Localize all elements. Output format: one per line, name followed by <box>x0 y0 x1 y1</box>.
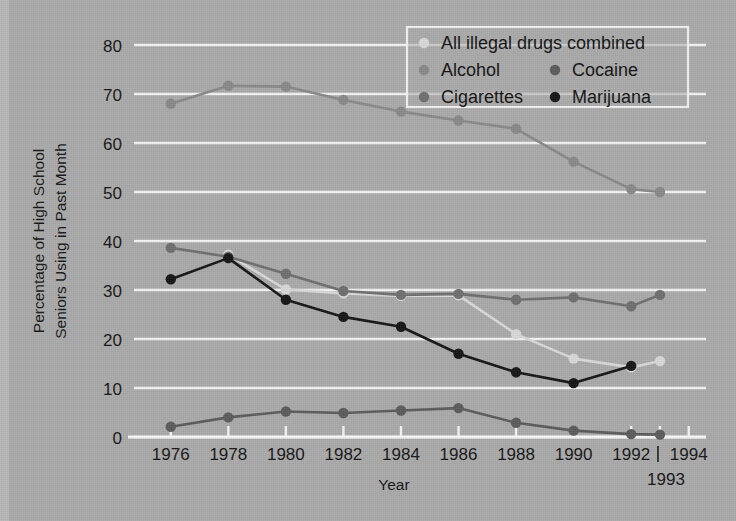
x-tick-labels-group: 1976197819801982198419861988199019921994… <box>152 445 708 489</box>
legend-label: Marijuana <box>572 87 652 107</box>
y-tick-label: 0 <box>113 429 122 448</box>
data-point <box>396 290 406 300</box>
data-point <box>568 353 578 363</box>
y-axis-title-line2: Seniors Using in Past Month <box>52 143 69 339</box>
data-point <box>568 156 578 166</box>
y-tick-label: 80 <box>103 37 122 56</box>
legend-marker-icon <box>419 92 429 102</box>
data-point <box>223 81 233 91</box>
y-tick-label: 70 <box>103 86 122 105</box>
data-point <box>338 286 348 296</box>
legend-item[interactable]: All illegal drugs combined <box>419 33 645 53</box>
y-tick-label: 20 <box>103 331 122 350</box>
x-axis-title: Year <box>378 476 409 493</box>
data-point <box>338 95 348 105</box>
data-point <box>281 406 291 416</box>
data-point <box>166 243 176 253</box>
data-point <box>281 269 291 279</box>
data-point <box>453 115 463 125</box>
series-line <box>228 255 660 368</box>
x-tick-label: 1978 <box>209 445 247 464</box>
y-tick-labels-group: 01020304050607080 <box>103 37 122 448</box>
x-tick-label: 1992 <box>612 445 650 464</box>
x-tick-label: 1994 <box>670 445 708 464</box>
legend-marker-icon <box>419 38 429 48</box>
data-point <box>223 253 233 263</box>
y-tick-label: 40 <box>103 233 122 252</box>
data-point <box>166 99 176 109</box>
x-tickmarks-group <box>171 426 689 437</box>
data-point <box>626 301 636 311</box>
series-cigarettes <box>166 243 666 312</box>
y-tick-label: 50 <box>103 184 122 203</box>
line-chart: 01020304050607080 1976197819801982198419… <box>0 0 736 521</box>
x-tick-label: 1984 <box>382 445 420 464</box>
x-tick-label: 1990 <box>555 445 593 464</box>
data-point <box>511 367 521 377</box>
series-marijuana <box>166 253 637 388</box>
data-series-group <box>166 81 666 440</box>
data-point <box>396 405 406 415</box>
data-point <box>166 274 176 284</box>
data-point <box>568 425 578 435</box>
legend-label: Alcohol <box>441 60 500 80</box>
data-point <box>453 403 463 413</box>
data-point <box>453 289 463 299</box>
data-point <box>655 356 665 366</box>
data-point <box>281 295 291 305</box>
data-point <box>626 361 636 371</box>
x-tick-label: 1982 <box>325 445 363 464</box>
x-tick-label: 1976 <box>152 445 190 464</box>
data-point <box>511 124 521 134</box>
series-cocaine <box>166 403 666 440</box>
series-line <box>171 248 660 306</box>
data-point <box>281 284 291 294</box>
legend-marker-icon <box>550 65 560 75</box>
x-tick-label-1993: 1993 <box>647 470 685 489</box>
x-tick-label: 1988 <box>497 445 535 464</box>
legend-label: All illegal drugs combined <box>441 33 645 53</box>
data-point <box>166 422 176 432</box>
data-point <box>511 329 521 339</box>
data-point <box>396 322 406 332</box>
series-all-illegal-drugs-combined <box>223 250 665 373</box>
data-point <box>655 429 665 439</box>
data-point <box>511 295 521 305</box>
x-tick-label: 1980 <box>267 445 305 464</box>
data-point <box>568 378 578 388</box>
series-line <box>171 258 631 383</box>
x-tick-label: 1986 <box>440 445 478 464</box>
y-tick-label: 10 <box>103 380 122 399</box>
data-point <box>655 290 665 300</box>
data-point <box>626 184 636 194</box>
y-tick-label: 60 <box>103 135 122 154</box>
series-line <box>171 408 660 435</box>
y-axis-title-line1: Percentage of High School <box>30 149 47 333</box>
legend-marker-icon <box>419 65 429 75</box>
data-point <box>655 187 665 197</box>
data-point <box>396 106 406 116</box>
legend-label: Cocaine <box>572 60 638 80</box>
data-point <box>568 292 578 302</box>
data-point <box>281 81 291 91</box>
data-point <box>223 412 233 422</box>
data-point <box>626 429 636 439</box>
y-tick-label: 30 <box>103 282 122 301</box>
data-point <box>453 349 463 359</box>
data-point <box>338 312 348 322</box>
chart-canvas: 01020304050607080 1976197819801982198419… <box>0 0 736 521</box>
chart-legend: All illegal drugs combinedAlcoholCocaine… <box>407 27 688 107</box>
legend-marker-icon <box>550 92 560 102</box>
data-point <box>511 418 521 428</box>
legend-label: Cigarettes <box>441 87 523 107</box>
data-point <box>338 408 348 418</box>
